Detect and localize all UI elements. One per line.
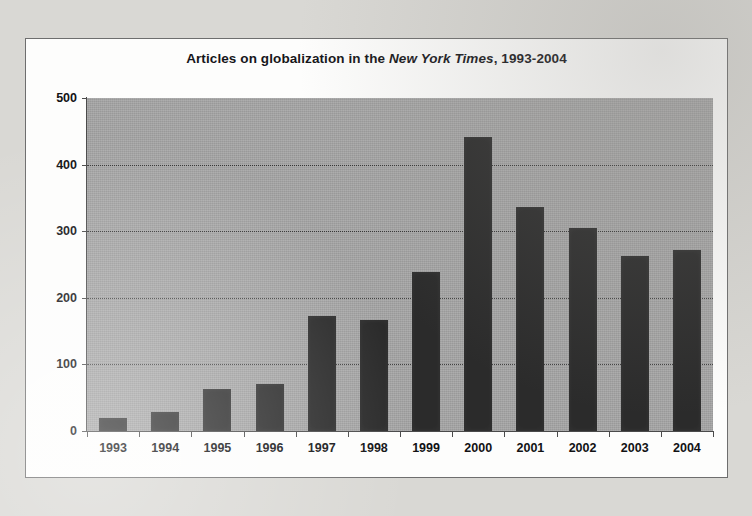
chart-frame: Articles on globalization in the New Yor… bbox=[25, 38, 728, 478]
x-axis-tick-label-1993: 1993 bbox=[87, 441, 139, 455]
y-axis-tick-label: 100 bbox=[33, 357, 77, 371]
x-axis-tick-mark bbox=[713, 431, 714, 437]
x-axis-tick-mark bbox=[452, 431, 453, 437]
y-axis-tick-label: 200 bbox=[33, 291, 77, 305]
bar-1994 bbox=[151, 412, 179, 431]
x-axis-tick-mark bbox=[557, 431, 558, 437]
bar-1995 bbox=[203, 389, 231, 431]
x-axis-tick-mark bbox=[348, 431, 349, 437]
chart-title-before: Articles on globalization in the bbox=[186, 51, 389, 66]
bar-2003 bbox=[621, 256, 649, 431]
bar-2000 bbox=[464, 137, 492, 431]
x-axis-tick-label-1995: 1995 bbox=[191, 441, 243, 455]
y-axis-tick-label: 500 bbox=[33, 91, 77, 105]
x-axis-tick-mark bbox=[661, 431, 662, 437]
gridline-300 bbox=[87, 231, 713, 232]
gridline-100 bbox=[87, 364, 713, 365]
x-axis-tick-mark bbox=[191, 431, 192, 437]
chart-title: Articles on globalization in the New Yor… bbox=[26, 51, 727, 66]
bar-2001 bbox=[516, 207, 544, 431]
plot-texture bbox=[87, 98, 713, 431]
bar-2004 bbox=[673, 250, 701, 431]
x-axis-tick-label-2002: 2002 bbox=[557, 441, 609, 455]
bar-2002 bbox=[569, 228, 597, 431]
x-axis-tick-mark bbox=[609, 431, 610, 437]
gridline-200 bbox=[87, 298, 713, 299]
chart-data-summary: 1993: 19, 1994: 28, 1995: 63, 1996: 71, … bbox=[26, 39, 27, 40]
x-axis-tick-label-2001: 2001 bbox=[504, 441, 556, 455]
bar-1998 bbox=[360, 320, 388, 431]
y-axis-tick-label: 300 bbox=[33, 224, 77, 238]
x-axis-tick-label-1997: 1997 bbox=[296, 441, 348, 455]
x-axis-tick-mark bbox=[504, 431, 505, 437]
x-axis-tick-mark bbox=[139, 431, 140, 437]
bar-1997 bbox=[308, 316, 336, 431]
y-axis-tick-label: 400 bbox=[33, 158, 77, 172]
x-axis-tick-label-2003: 2003 bbox=[609, 441, 661, 455]
plot-area bbox=[87, 98, 713, 431]
chart-title-italic: New York Times bbox=[389, 51, 494, 66]
x-axis-tick-mark bbox=[296, 431, 297, 437]
x-axis-tick-label-1994: 1994 bbox=[139, 441, 191, 455]
x-axis-tick-mark bbox=[400, 431, 401, 437]
x-axis-tick-label-1998: 1998 bbox=[348, 441, 400, 455]
bar-1996 bbox=[256, 384, 284, 431]
chart-title-after: , 1993-2004 bbox=[494, 51, 567, 66]
x-axis-tick-mark bbox=[87, 431, 88, 437]
x-axis-tick-mark bbox=[244, 431, 245, 437]
x-axis-tick-label-1996: 1996 bbox=[244, 441, 296, 455]
bar-1999 bbox=[412, 272, 440, 431]
bar-1993 bbox=[99, 418, 127, 431]
x-axis-tick-label-2000: 2000 bbox=[452, 441, 504, 455]
x-axis-tick-label-1999: 1999 bbox=[400, 441, 452, 455]
y-axis-tick-label: 0 bbox=[33, 424, 77, 438]
gridline-400 bbox=[87, 165, 713, 166]
x-axis-tick-label-2004: 2004 bbox=[661, 441, 713, 455]
chart-page: Articles on globalization in the New Yor… bbox=[0, 0, 752, 516]
y-axis-tick-mark bbox=[82, 98, 87, 99]
